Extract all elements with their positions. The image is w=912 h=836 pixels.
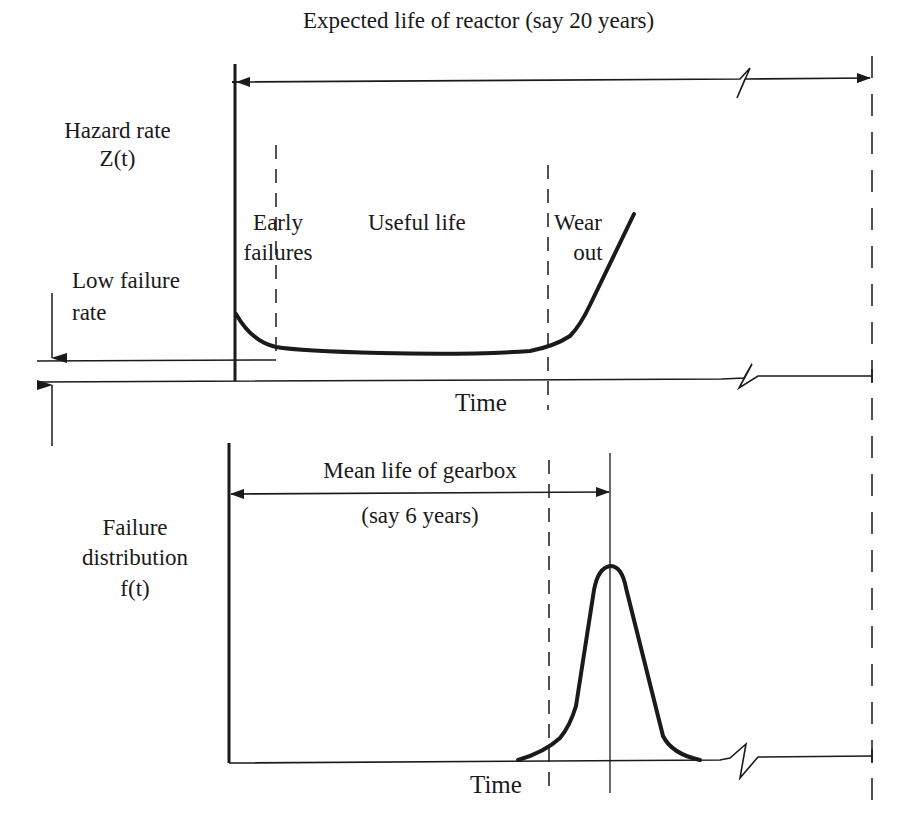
useful-life-label: Useful life — [368, 210, 466, 236]
gearbox-failure-distribution-curve — [518, 566, 700, 760]
hazard-rate-label: Hazard rate — [30, 118, 205, 144]
low-failure-rate-label-line1: Low failure — [72, 268, 180, 294]
gearbox-life-label-line1: Mean life of gearbox — [280, 458, 560, 484]
hazard-time-axis — [37, 364, 872, 388]
distribution-time-axis — [229, 744, 872, 778]
reactor-life-label: Expected life of reactor (say 20 years) — [303, 8, 654, 34]
early-failures-label-line2: failures — [238, 240, 318, 266]
failure-distribution-label-line2: distribution — [55, 545, 215, 571]
early-failures-label-line1: Early — [238, 210, 318, 236]
hazard-rate-symbol: Z(t) — [30, 146, 205, 172]
gearbox-life-dimension-line — [231, 492, 609, 494]
wear-out-label-line2: out — [560, 240, 616, 266]
low-failure-rate-label-line2: rate — [72, 300, 106, 326]
failure-distribution-label-line1: Failure — [55, 515, 215, 541]
gearbox-life-label-line2: (say 6 years) — [280, 503, 560, 529]
hazard-time-axis-label: Time — [455, 390, 507, 416]
failure-distribution-symbol: f(t) — [55, 576, 215, 602]
low-rate-reference-line — [37, 360, 276, 361]
distribution-time-axis-label: Time — [470, 772, 522, 798]
reactor-life-dimension-line — [232, 68, 870, 98]
wear-out-label-line1: Wear — [550, 210, 606, 236]
